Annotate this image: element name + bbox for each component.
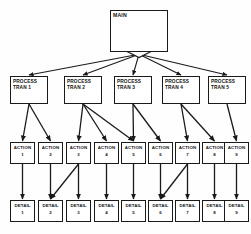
node-process-tran-2[interactable]: PROCESSTRAN 2 [64, 76, 102, 104]
action-number: 5 [132, 151, 134, 158]
detail-number: 7 [186, 209, 188, 216]
process-label-line2: TRAN 5 [211, 85, 245, 91]
action-number: 7 [186, 151, 188, 158]
detail-number: 3 [77, 209, 79, 216]
action-number: 1 [21, 151, 23, 158]
edge-main-to-process-tran-4 [139, 54, 181, 75]
edge-process-tran-2-to-action-4 [83, 104, 107, 141]
node-action-1[interactable]: ACTION1 [10, 142, 35, 164]
edge-main-to-process-tran-5 [139, 54, 227, 75]
edge-process-tran-1-to-action-2 [29, 104, 51, 141]
edge-main-to-process-tran-1 [29, 54, 139, 75]
node-process-tran-1[interactable]: PROCESSTRAN 1 [10, 76, 48, 104]
edge-process-tran-2-to-action-3 [79, 104, 84, 141]
node-action-9[interactable]: ACTION9 [224, 142, 249, 164]
node-process-tran-5[interactable]: PROCESSTRAN 5 [208, 76, 246, 104]
structure-chart-diagram: MAINPROCESSTRAN 1PROCESSTRAN 2PROCESSTRA… [0, 0, 251, 234]
edge-action-3-to-detail-2 [51, 164, 79, 199]
node-detail-9[interactable]: DETAIL9 [224, 200, 249, 222]
node-detail-7[interactable]: DETAIL7 [175, 200, 200, 222]
edge-process-tran-3-to-action-6 [133, 104, 161, 141]
node-action-3[interactable]: ACTION3 [66, 142, 91, 164]
node-action-7[interactable]: ACTION7 [175, 142, 200, 164]
detail-number: 6 [159, 209, 161, 216]
detail-number: 8 [213, 209, 215, 216]
action-number: 8 [213, 151, 215, 158]
edge-process-tran-5-to-action-9 [227, 104, 237, 141]
detail-number: 4 [105, 209, 107, 216]
process-label-line2: TRAN 4 [165, 85, 199, 91]
node-action-6[interactable]: ACTION6 [148, 142, 173, 164]
action-number: 4 [105, 151, 107, 158]
node-main-label: MAIN [113, 12, 167, 18]
action-number: 9 [235, 151, 237, 158]
edge-main-to-process-tran-3 [133, 54, 139, 75]
action-number: 2 [49, 151, 51, 158]
edge-process-tran-4-to-action-7 [181, 104, 188, 141]
node-process-tran-3[interactable]: PROCESSTRAN 3 [114, 76, 152, 104]
process-label-line2: TRAN 1 [13, 85, 47, 91]
node-main[interactable]: MAIN [110, 10, 168, 52]
edge-process-tran-3-to-action-5 [133, 104, 134, 141]
node-detail-4[interactable]: DETAIL4 [94, 200, 119, 222]
action-number: 3 [77, 151, 79, 158]
process-label-line2: TRAN 2 [67, 85, 101, 91]
node-detail-5[interactable]: DETAIL5 [121, 200, 146, 222]
edge-action-7-to-detail-6 [161, 164, 188, 199]
detail-number: 2 [49, 209, 51, 216]
detail-number: 5 [132, 209, 134, 216]
action-number: 6 [159, 151, 161, 158]
node-detail-2[interactable]: DETAIL2 [38, 200, 63, 222]
node-action-5[interactable]: ACTION5 [121, 142, 146, 164]
node-detail-3[interactable]: DETAIL3 [66, 200, 91, 222]
detail-number: 9 [235, 209, 237, 216]
node-detail-1[interactable]: DETAIL1 [10, 200, 35, 222]
edge-main-to-process-tran-2 [83, 54, 139, 75]
detail-number: 1 [21, 209, 23, 216]
node-detail-6[interactable]: DETAIL6 [148, 200, 173, 222]
node-action-4[interactable]: ACTION4 [94, 142, 119, 164]
edge-process-tran-2-to-action-5 [83, 104, 134, 141]
process-label-line2: TRAN 3 [117, 85, 151, 91]
edge-process-tran-4-to-action-8 [181, 104, 215, 141]
edge-process-tran-1-to-action-1 [23, 104, 30, 141]
node-process-tran-4[interactable]: PROCESSTRAN 4 [162, 76, 200, 104]
node-action-2[interactable]: ACTION2 [38, 142, 63, 164]
